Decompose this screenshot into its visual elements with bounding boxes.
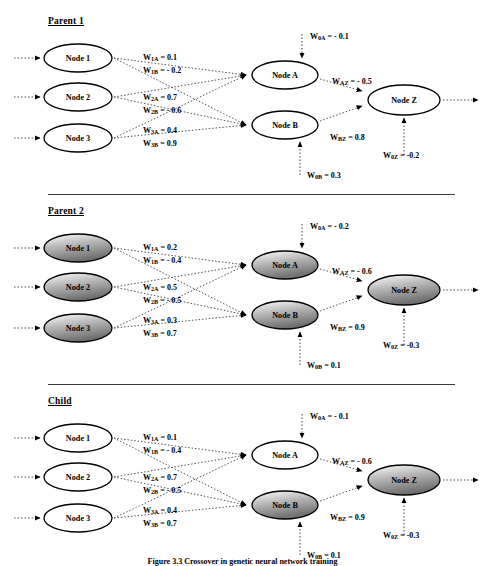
- weight-value: = 0.9: [348, 513, 365, 522]
- node-output-z[interactable]: Node Z: [368, 465, 440, 495]
- weight-label-w2b: W2B = - 0.5: [143, 297, 181, 305]
- weight-label-w2b: W2B = - 0.5: [143, 487, 181, 495]
- node-input-2[interactable]: Node 2: [44, 83, 112, 111]
- weight-value: = -0.2: [400, 151, 419, 160]
- svg-text:Node 2: Node 2: [66, 473, 90, 482]
- weight-label-w1b: W1B = - 0.4: [143, 447, 181, 455]
- weight-subscript: AZ: [340, 270, 348, 276]
- weight-symbol: W: [143, 93, 151, 102]
- node-input-3[interactable]: Node 3: [44, 124, 112, 152]
- weight-symbol: W: [332, 77, 340, 86]
- svg-text:Node 3: Node 3: [66, 514, 90, 523]
- weight-subscript: AZ: [340, 80, 348, 86]
- weight-label-w3a: W3A = 0.4: [143, 127, 177, 135]
- weight-subscript: 0B: [315, 364, 322, 370]
- weight-label-w1b: W1B = - 0.4: [143, 257, 181, 265]
- node-input-3[interactable]: Node 3: [44, 504, 112, 532]
- weight-label-w0z: W0Z = -0.3: [383, 532, 419, 540]
- weight-subscript: 1A: [151, 436, 158, 442]
- weight-value: = 0.7: [160, 329, 177, 338]
- svg-text:Node 1: Node 1: [66, 54, 90, 63]
- weight-subscript: 3A: [151, 509, 158, 515]
- weight-symbol: W: [143, 329, 151, 338]
- weight-subscript: 0Z: [391, 534, 398, 540]
- weight-value: = -0.3: [400, 341, 419, 350]
- node-input-2[interactable]: Node 2: [44, 273, 112, 301]
- network-graph-parent2: Node 1Node 2Node 3Node ANode BNode Z: [0, 190, 485, 380]
- svg-text:Node A: Node A: [272, 451, 298, 460]
- weight-subscript: 1B: [151, 69, 158, 75]
- svg-text:Node B: Node B: [272, 501, 298, 510]
- weight-subscript: 2A: [151, 286, 158, 292]
- svg-text:Node 2: Node 2: [66, 283, 90, 292]
- node-output-z[interactable]: Node Z: [368, 275, 440, 305]
- weight-value: = 0.7: [160, 93, 177, 102]
- weight-symbol: W: [332, 267, 340, 276]
- weight-symbol: W: [383, 151, 391, 160]
- weight-label-w0b: W0B = 0.3: [307, 172, 341, 180]
- weight-symbol: W: [307, 171, 315, 180]
- weight-subscript: BZ: [338, 136, 346, 142]
- node-hidden-b[interactable]: Node B: [252, 111, 318, 139]
- svg-text:Node 2: Node 2: [66, 93, 90, 102]
- weight-value: = - 0.4: [160, 256, 181, 265]
- svg-text:Node B: Node B: [272, 311, 298, 320]
- weight-value: = 0.1: [324, 361, 341, 370]
- weight-label-waz: WAZ = - 0.6: [332, 458, 372, 466]
- node-input-1[interactable]: Node 1: [44, 234, 112, 262]
- svg-text:Node B: Node B: [272, 121, 298, 130]
- weight-symbol: W: [330, 513, 338, 522]
- weight-label-waz: WAZ = - 0.5: [332, 78, 372, 86]
- weight-label-w0a: W0A = - 0.1: [310, 413, 349, 421]
- svg-text:Node Z: Node Z: [391, 476, 417, 485]
- weight-value: = 0.8: [348, 133, 365, 142]
- weight-value: = - 0.5: [160, 486, 181, 495]
- node-hidden-b[interactable]: Node B: [252, 491, 318, 519]
- weight-subscript: 3B: [151, 332, 158, 338]
- node-output-z[interactable]: Node Z: [368, 85, 440, 115]
- weight-subscript: 1A: [151, 246, 158, 252]
- weight-value: = - 0.5: [160, 296, 181, 305]
- network-section-parent2: Parent 2Node 1Node 2Node 3Node ANode BNo…: [0, 190, 485, 380]
- weight-label-wbz: WBZ = 0.9: [330, 514, 365, 522]
- weight-label-w1a: W1A = 0.2: [143, 244, 177, 252]
- weight-label-w3a: W3A = 0.3: [143, 317, 177, 325]
- weight-subscript: 0B: [315, 174, 322, 180]
- weight-subscript: AZ: [340, 460, 348, 466]
- weight-label-w2a: W2A = 0.7: [143, 94, 177, 102]
- svg-text:Node Z: Node Z: [391, 286, 417, 295]
- weight-symbol: W: [143, 316, 151, 325]
- weight-symbol: W: [143, 519, 151, 528]
- weight-label-w3a: W3A = 0.4: [143, 507, 177, 515]
- weight-subscript: 3A: [151, 129, 158, 135]
- figure-caption: Figure 3.3 Crossover in genetic neural n…: [0, 557, 485, 566]
- svg-text:Node 3: Node 3: [66, 324, 90, 333]
- weight-symbol: W: [143, 256, 151, 265]
- weight-symbol: W: [332, 457, 340, 466]
- weight-value: = 0.4: [160, 506, 177, 515]
- weight-subscript: 2B: [151, 299, 158, 305]
- weight-subscript: BZ: [338, 326, 346, 332]
- weight-label-w2a: W2A = 0.7: [143, 474, 177, 482]
- node-input-3[interactable]: Node 3: [44, 314, 112, 342]
- node-hidden-a[interactable]: Node A: [252, 441, 318, 469]
- weight-symbol: W: [143, 283, 151, 292]
- weight-symbol: W: [307, 361, 315, 370]
- node-hidden-a[interactable]: Node A: [252, 61, 318, 89]
- weight-value: = - 0.1: [327, 32, 348, 41]
- weight-symbol: W: [330, 133, 338, 142]
- weight-subscript: 0A: [318, 35, 325, 41]
- weight-symbol: W: [310, 412, 318, 421]
- node-input-1[interactable]: Node 1: [44, 44, 112, 72]
- weight-subscript: 1B: [151, 449, 158, 455]
- weight-symbol: W: [143, 506, 151, 515]
- weight-label-w3b: W3B = 0.7: [143, 520, 177, 528]
- node-hidden-b[interactable]: Node B: [252, 301, 318, 329]
- weight-value: = 0.5: [160, 283, 177, 292]
- node-hidden-a[interactable]: Node A: [252, 251, 318, 279]
- node-input-1[interactable]: Node 1: [44, 424, 112, 452]
- weight-value: = - 0.1: [327, 412, 348, 421]
- weight-symbol: W: [383, 341, 391, 350]
- node-input-2[interactable]: Node 2: [44, 463, 112, 491]
- weight-symbol: W: [143, 473, 151, 482]
